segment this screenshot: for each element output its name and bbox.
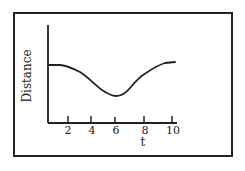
- x-tick-label-6: 6: [113, 124, 120, 137]
- chart-canvas: 2 4 6 8 10 t Distance: [0, 0, 245, 171]
- x-axis-label: t: [141, 135, 146, 149]
- y-axis-label: Distance: [20, 49, 34, 102]
- x-tick-label-2: 2: [65, 124, 72, 137]
- chart-border: [14, 13, 232, 156]
- x-tick-label-4: 4: [89, 124, 96, 137]
- x-tick-label-10: 10: [166, 124, 180, 137]
